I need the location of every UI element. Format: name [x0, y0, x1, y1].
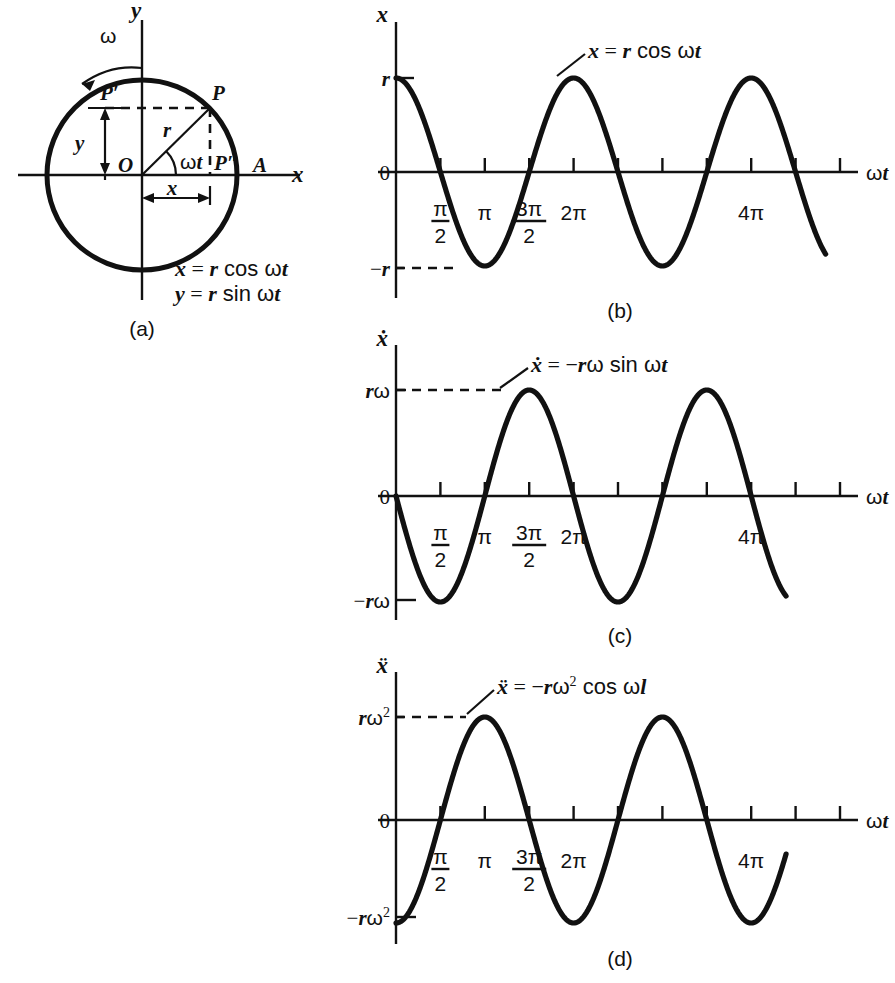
- y-measure-arrowhead-top: [100, 108, 110, 120]
- panel-c-annotation-leader: [500, 368, 528, 388]
- panel-d: π2π3π22π4π ẍ rω2 0 −rω2 ωt ẍ = −rω2 cos …: [347, 653, 890, 970]
- panel-b: π2π3π22π4π x r 0 −r ωt x = r cos ωt (b): [370, 2, 889, 322]
- tick-label-denominator: 2: [523, 224, 535, 247]
- tick-label-denominator: 2: [523, 872, 535, 895]
- point-label-p: P: [211, 81, 225, 105]
- segment-label-y: y: [72, 131, 85, 155]
- panel-c-ticks: [440, 482, 840, 496]
- point-label-origin: O: [118, 153, 133, 177]
- tick-label-denominator: 2: [435, 224, 447, 247]
- panel-a-caption: (a): [129, 317, 155, 340]
- tick-label-numerator: π: [433, 845, 448, 868]
- panel-a-equation-y: y = r sin ωt: [172, 281, 281, 306]
- panel-c-y-axis-label: ẋ: [376, 326, 389, 351]
- panel-b-caption: (b): [607, 299, 633, 322]
- segment-label-r: r: [163, 118, 172, 142]
- tick-label: π: [478, 525, 493, 548]
- x-measure-arrowhead-left: [142, 193, 154, 203]
- tick-label-numerator: π: [433, 521, 448, 544]
- angle-arc-omega-t: [166, 151, 176, 175]
- tick-label: π: [478, 201, 493, 224]
- x-measure-arrowhead-right: [198, 193, 210, 203]
- panel-d-ylabel-neg-r-omega-sq: −rω2: [347, 905, 390, 930]
- tick-label: 4π: [738, 201, 764, 224]
- tick-label: 4π: [738, 849, 764, 872]
- point-label-p-double-prime: P″: [213, 151, 238, 175]
- panel-c-equation-annotation: ẋ = −rω sin ωt: [530, 352, 668, 377]
- panel-d-y-axis-label: ẍ: [376, 653, 389, 678]
- segment-label-omega-t: ωt: [180, 150, 203, 174]
- y-measure-arrowhead-bottom: [100, 163, 110, 175]
- figure-root: y x ω P′ P P″ A O y r ωt x x = r cos ωt …: [0, 0, 895, 983]
- tick-label-denominator: 2: [435, 548, 447, 571]
- panel-c-ylabel-r-omega: rω: [365, 379, 390, 403]
- point-label-p-prime: P′: [99, 81, 119, 105]
- point-label-a: A: [251, 153, 267, 177]
- tick-label: 2π: [561, 201, 587, 224]
- panel-c-ylabel-zero: 0: [380, 485, 391, 509]
- panel-a: y x ω P′ P P″ A O y r ωt x x = r cos ωt …: [18, 0, 304, 340]
- panel-b-ticks: [440, 158, 840, 172]
- panel-c-caption: (c): [608, 624, 633, 647]
- tick-label: π: [478, 849, 493, 872]
- panel-a-y-axis-label: y: [128, 0, 142, 23]
- panel-d-ylabel-r-omega-sq: rω2: [358, 705, 390, 730]
- panel-c-ylabel-neg-r-omega: −rω: [354, 589, 390, 613]
- panel-b-x-tick-labels: π2π3π22π4π: [431, 197, 764, 247]
- panel-d-caption: (d): [607, 947, 633, 970]
- panel-b-y-axis-label: x: [376, 2, 389, 27]
- tick-label: 2π: [561, 849, 587, 872]
- panel-b-x-axis-label: ωt: [866, 161, 889, 185]
- tick-label-denominator: 2: [435, 872, 447, 895]
- panel-d-ticks: [440, 806, 840, 820]
- panel-c-x-tick-labels: π2π3π22π4π: [431, 521, 764, 571]
- panel-c-x-axis-label: ωt: [866, 485, 889, 509]
- tick-label-denominator: 2: [523, 548, 535, 571]
- panel-b-ylabel-neg-r: −r: [370, 257, 391, 281]
- panel-d-equation-annotation: ẍ = −rω2 cos ωl: [496, 674, 647, 699]
- omega-label: ω: [100, 24, 116, 47]
- panel-a-x-axis-label: x: [291, 162, 304, 187]
- panel-d-ylabel-zero: 0: [380, 809, 391, 833]
- panel-b-ylabel-zero: 0: [380, 161, 391, 185]
- panel-b-equation-annotation: x = r cos ωt: [587, 38, 702, 63]
- panel-b-ylabel-r: r: [382, 67, 391, 91]
- panel-c: π2π3π22π4π ẋ rω 0 −rω ωt ẋ = −rω sin ωt …: [354, 326, 890, 647]
- panel-a-equation-x: x = r cos ωt: [174, 256, 289, 281]
- panel-d-x-axis-label: ωt: [866, 809, 889, 833]
- tick-label-numerator: 3π: [516, 521, 542, 544]
- panel-d-annotation-leader: [467, 690, 494, 714]
- segment-label-x: x: [166, 176, 178, 200]
- panel-b-annotation-leader: [557, 54, 585, 76]
- tick-label-numerator: π: [433, 197, 448, 220]
